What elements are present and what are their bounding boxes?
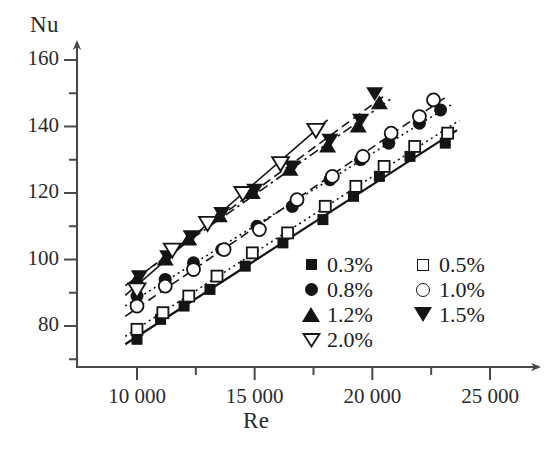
filled-circle-icon <box>300 279 322 301</box>
legend-entry-0-8: 0.8% <box>300 277 412 302</box>
legend-entry-0-3: 0.3% <box>300 252 412 277</box>
data-point <box>379 161 390 172</box>
legend-entry-1-5: 1.5% <box>412 302 524 327</box>
legend-label: 0.3% <box>327 252 373 278</box>
data-point <box>442 128 453 139</box>
data-point <box>212 271 223 282</box>
data-point <box>187 263 200 276</box>
y-tick-label-100: 100 <box>0 246 59 271</box>
data-point <box>291 193 304 206</box>
data-point <box>317 214 328 225</box>
data-point <box>427 93 440 106</box>
legend-entry-0-5: 0.5% <box>412 252 524 277</box>
data-point <box>320 201 331 212</box>
filled-triangle-up-icon <box>300 304 322 326</box>
nusselt-reynolds-chart: Nu Re 8010012014016010 00015 00020 00025… <box>0 0 550 458</box>
legend-label: 0.8% <box>327 277 373 303</box>
data-point <box>204 284 215 295</box>
data-point <box>157 307 168 318</box>
legend-column-right: 0.5%1.0%1.5% <box>412 252 524 352</box>
marker-glyph <box>305 283 318 296</box>
x-tick-label-25000: 25 000 <box>430 384 550 409</box>
legend-label: 1.5% <box>439 302 485 328</box>
marker-glyph <box>417 259 429 271</box>
marker-glyph <box>306 259 317 270</box>
data-point <box>326 170 339 183</box>
x-axis-title: Re <box>243 408 270 434</box>
y-tick-label-80: 80 <box>0 312 59 337</box>
data-point <box>159 280 172 293</box>
data-point <box>253 223 266 236</box>
filled-square-icon <box>300 254 322 276</box>
legend-entry-2-0: 2.0% <box>300 327 412 352</box>
data-point <box>409 141 420 152</box>
open-circle-icon <box>412 279 434 301</box>
legend-column-left: 0.3%0.8%1.2%2.0% <box>300 252 412 352</box>
data-point <box>240 261 251 272</box>
open-square-icon <box>412 254 434 276</box>
data-point <box>131 300 144 313</box>
data-point <box>385 127 398 140</box>
y-tick-label-120: 120 <box>0 179 59 204</box>
legend-label: 0.5% <box>439 252 485 278</box>
data-point <box>183 291 194 302</box>
y-axis-title: Nu <box>30 12 59 38</box>
y-tick-label-140: 140 <box>0 113 59 138</box>
legend-label: 2.0% <box>327 327 373 353</box>
data-point <box>132 324 143 335</box>
data-point <box>282 227 293 238</box>
legend-entry-1-2: 1.2% <box>300 302 412 327</box>
data-point <box>218 243 231 256</box>
marker-glyph <box>414 307 432 322</box>
data-point <box>350 181 361 192</box>
marker-glyph <box>302 307 320 322</box>
x-tick-label-20000: 20 000 <box>312 384 432 409</box>
legend-entry-1-0: 1.0% <box>412 277 524 302</box>
x-tick-label-10000: 10 000 <box>77 384 197 409</box>
filled-triangle-down-icon <box>412 304 434 326</box>
legend: 0.3%0.8%1.2%2.0% 0.5%1.0%1.5% <box>300 252 530 352</box>
data-point <box>247 247 258 258</box>
legend-label: 1.0% <box>439 277 485 303</box>
x-tick-label-15000: 15 000 <box>195 384 315 409</box>
open-triangle-down-icon <box>300 329 322 351</box>
data-point <box>413 110 426 123</box>
y-tick-label-160: 160 <box>0 46 59 71</box>
legend-label: 1.2% <box>327 302 373 328</box>
data-point <box>356 150 369 163</box>
marker-glyph <box>416 283 430 297</box>
